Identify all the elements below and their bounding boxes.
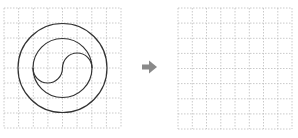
right-grid (178, 8, 292, 129)
diagram-canvas (0, 0, 298, 138)
arrow-icon (142, 61, 157, 74)
